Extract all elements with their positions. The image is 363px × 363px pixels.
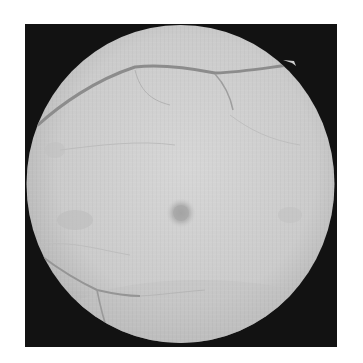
fundus-image: [0, 0, 363, 363]
